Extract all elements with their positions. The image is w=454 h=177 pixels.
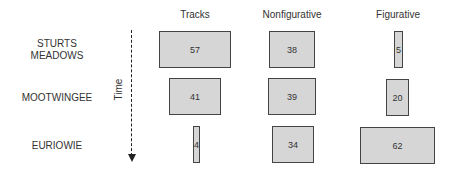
row-label-sturts-meadows: STURTS MEADOWS <box>2 38 112 62</box>
column-header-figurative: Figurative <box>348 9 448 20</box>
box-mootwingee-tracks: 41 <box>169 78 221 115</box>
box-euriowie-tracks: 4 <box>193 126 200 163</box>
row-label-line: STURTS <box>2 38 112 50</box>
box-sturts-tracks: 57 <box>159 31 231 68</box>
box-sturts-figurative: 5 <box>394 31 403 68</box>
arrow-down-icon <box>128 154 136 162</box>
column-header-nonfigurative: Nonfigurative <box>242 9 342 20</box>
row-label-mootwingee: MOOTWINGEE <box>2 92 112 104</box>
column-header-tracks: Tracks <box>145 9 245 20</box>
diagram: Tracks Nonfigurative Figurative STURTS M… <box>0 0 454 177</box>
time-axis-label: Time <box>113 79 124 101</box>
box-mootwingee-nonfigurative: 39 <box>268 78 316 115</box>
row-label-line: MEADOWS <box>2 50 112 62</box>
time-axis-line <box>131 30 132 156</box>
box-euriowie-figurative: 62 <box>360 127 435 164</box>
box-euriowie-nonfigurative: 34 <box>272 126 314 163</box>
box-mootwingee-figurative: 20 <box>386 79 409 116</box>
box-sturts-nonfigurative: 38 <box>269 31 315 68</box>
row-label-euriowie: EURIOWIE <box>2 140 112 152</box>
